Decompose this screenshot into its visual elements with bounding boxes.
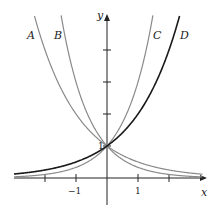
curves	[14, 15, 202, 177]
x-axis-arrow-icon	[200, 175, 207, 181]
x-tick-label-neg1: −1	[68, 186, 81, 196]
exponential-chart: x y −1 1 1 A B C D	[0, 0, 221, 213]
y-axis-arrow-icon	[104, 14, 110, 21]
curve-label-b: B	[53, 29, 62, 42]
curve-label-a: A	[26, 29, 35, 42]
x-axis-label: x	[201, 186, 208, 199]
y-axis-label: y	[96, 9, 104, 22]
x-tick-label-1: 1	[135, 186, 141, 196]
curve-label-d: D	[179, 29, 189, 42]
curve-label-c: C	[153, 29, 162, 42]
y-tick-label-1: 1	[98, 141, 104, 151]
